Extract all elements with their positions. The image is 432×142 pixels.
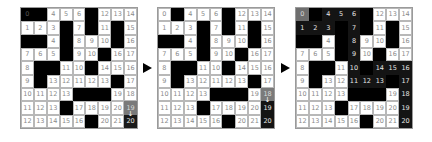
wall-cell bbox=[98, 88, 111, 101]
grid-cell: 14 bbox=[373, 61, 386, 74]
grid-cell: 19 bbox=[386, 88, 399, 101]
cell-value: 14 bbox=[186, 118, 194, 125]
wall-cell bbox=[34, 35, 47, 48]
grid-cell: 21 bbox=[111, 115, 124, 128]
grid-cell: 11 bbox=[171, 88, 184, 101]
wall-cell bbox=[85, 61, 98, 74]
cell-value: 13 bbox=[376, 78, 384, 85]
grid-cell: 17 bbox=[73, 101, 86, 114]
cell-value: 7 bbox=[214, 25, 218, 32]
grid-cell: 7 bbox=[21, 48, 34, 61]
cell-value: 8 bbox=[300, 65, 304, 72]
wall-cell bbox=[386, 75, 399, 88]
cell-value: 13 bbox=[238, 78, 246, 85]
wall-cell bbox=[360, 8, 373, 21]
grid-cell: 17 bbox=[124, 48, 137, 61]
grid-cell: 11 bbox=[73, 75, 86, 88]
cell-value: 13 bbox=[324, 105, 332, 112]
cell-value: 10 bbox=[350, 65, 358, 72]
grid-cell: 6 bbox=[210, 8, 223, 21]
cell-value: 11 bbox=[238, 25, 246, 32]
grid-cell: 14 bbox=[47, 115, 60, 128]
cell-value: 16 bbox=[401, 65, 409, 72]
grid-cell: 13 bbox=[60, 88, 73, 101]
cell-value: 10 bbox=[160, 91, 168, 98]
grid-cell: 4 bbox=[184, 35, 197, 48]
grid-cell: 4 bbox=[47, 35, 60, 48]
grid-cell: 19 bbox=[235, 101, 248, 114]
cell-value: 9 bbox=[25, 78, 29, 85]
cell-value: 12 bbox=[23, 118, 31, 125]
wall-cell bbox=[197, 21, 210, 34]
cell-value: 11 bbox=[298, 105, 306, 112]
cell-value: 18 bbox=[401, 91, 409, 98]
wall-cell bbox=[184, 61, 197, 74]
cell-value: 11 bbox=[36, 91, 44, 98]
grid-cell: 10 bbox=[73, 61, 86, 74]
grid-cell: 19 bbox=[111, 88, 124, 101]
cell-value: 19 bbox=[401, 105, 409, 112]
cell-value: 16 bbox=[126, 65, 134, 72]
grid-cell: 14 bbox=[184, 115, 197, 128]
grid-cell: 10 bbox=[296, 88, 309, 101]
cell-value: 18 bbox=[225, 105, 233, 112]
grid-cell: 1 bbox=[296, 21, 309, 34]
cell-value: 12 bbox=[173, 105, 181, 112]
grid-cell: 1 bbox=[158, 21, 171, 34]
cell-value: 12 bbox=[88, 78, 96, 85]
cell-value: 3 bbox=[326, 25, 330, 32]
grid-cell: 17 bbox=[399, 75, 412, 88]
grid-cell: 15 bbox=[60, 115, 73, 128]
grid-cell: 10 bbox=[222, 48, 235, 61]
grid-cell: 12 bbox=[309, 101, 322, 114]
cell-value: 12 bbox=[337, 78, 345, 85]
grid-cell: 15 bbox=[197, 115, 210, 128]
grid-cell: 12 bbox=[373, 8, 386, 21]
cell-value: 10 bbox=[75, 65, 83, 72]
wall-cell bbox=[85, 21, 98, 34]
wall-cell bbox=[386, 21, 399, 34]
cell-value: 11 bbox=[199, 65, 207, 72]
wall-cell: 0 bbox=[21, 8, 34, 21]
wall-cell bbox=[60, 101, 73, 114]
wall-cell bbox=[248, 21, 261, 34]
cell-value: 5 bbox=[339, 11, 343, 18]
grid-cell: 4 bbox=[322, 8, 335, 21]
cell-value: 6 bbox=[175, 51, 179, 58]
cell-value: 13 bbox=[199, 91, 207, 98]
grid-cell: 6 bbox=[171, 48, 184, 61]
cell-value: 2 bbox=[38, 25, 42, 32]
cell-value: 17 bbox=[212, 105, 220, 112]
grid-cell: 13 bbox=[309, 115, 322, 128]
cell-value: 13 bbox=[337, 91, 345, 98]
grid-cell: 5 bbox=[335, 8, 348, 21]
grid-cell: 12 bbox=[60, 75, 73, 88]
cell-value: 10 bbox=[23, 91, 31, 98]
cell-value: 6 bbox=[38, 51, 42, 58]
grid-cell: 10 bbox=[348, 61, 361, 74]
grid-cell: 16 bbox=[124, 61, 137, 74]
wall-cell bbox=[98, 48, 111, 61]
cell-value: 4 bbox=[188, 38, 192, 45]
wall-cell bbox=[171, 61, 184, 74]
cell-value: 10 bbox=[225, 51, 233, 58]
wall-cell bbox=[158, 35, 171, 48]
grid-cell: 5 bbox=[197, 8, 210, 21]
cell-value: 2 bbox=[313, 25, 317, 32]
cell-value: 13 bbox=[186, 105, 194, 112]
cell-value: 16 bbox=[126, 38, 134, 45]
cell-value: 20 bbox=[376, 118, 384, 125]
cell-value: 16 bbox=[75, 118, 83, 125]
grid-cell: 2 bbox=[309, 21, 322, 34]
cell-value: 11 bbox=[23, 105, 31, 112]
cell-value: 10 bbox=[376, 38, 384, 45]
cell-value: 8 bbox=[214, 38, 218, 45]
grid-cell: 12 bbox=[222, 75, 235, 88]
wall-cell bbox=[296, 35, 309, 48]
cell-value: 21 bbox=[114, 118, 122, 125]
grid-cell: 13 bbox=[184, 101, 197, 114]
grid-cell: 17 bbox=[261, 48, 274, 61]
grid-cell: 13 bbox=[47, 75, 60, 88]
grid-cell: 14 bbox=[399, 8, 412, 21]
grid-cell: 3 bbox=[47, 21, 60, 34]
